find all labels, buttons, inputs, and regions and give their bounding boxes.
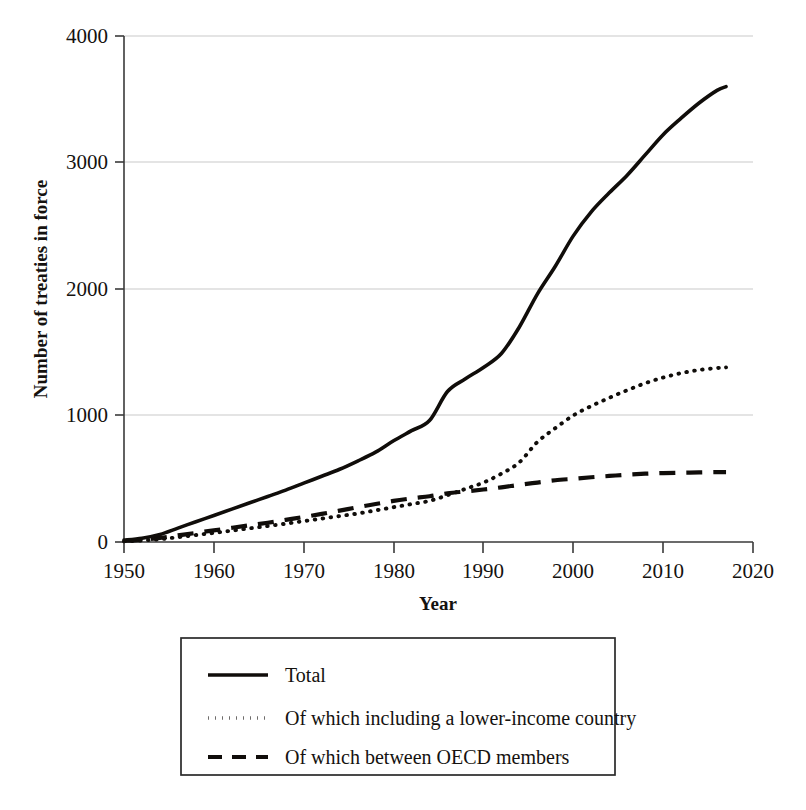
chart-figure: 4000 3000 2000 1000 0 1950 1960 1970 198… bbox=[0, 0, 806, 810]
y-tick-label-2000: 2000 bbox=[66, 277, 108, 301]
y-tick-label-3000: 3000 bbox=[66, 150, 108, 174]
y-axis-title: Number of treaties in force bbox=[30, 180, 51, 398]
x-tick-label-2000: 2000 bbox=[552, 559, 594, 583]
x-tick-label-1960: 1960 bbox=[193, 559, 235, 583]
y-tick-label-1000: 1000 bbox=[66, 403, 108, 427]
x-axis-title: Year bbox=[419, 593, 458, 614]
legend-label-total: Total bbox=[285, 664, 326, 686]
y-tick-label-4000: 4000 bbox=[66, 24, 108, 48]
x-tick-label-1970: 1970 bbox=[283, 559, 325, 583]
y-tick-label-0: 0 bbox=[98, 530, 109, 554]
x-tick-label-1990: 1990 bbox=[462, 559, 504, 583]
x-tick-label-1980: 1980 bbox=[373, 559, 415, 583]
x-tick-label-1950: 1950 bbox=[103, 559, 145, 583]
legend: Total Of which including a lower-income … bbox=[181, 638, 636, 775]
legend-label-lower-income: Of which including a lower-income countr… bbox=[285, 707, 636, 730]
legend-label-oecd: Of which between OECD members bbox=[285, 746, 570, 768]
line-chart: 4000 3000 2000 1000 0 1950 1960 1970 198… bbox=[0, 0, 806, 810]
x-tick-label-2020: 2020 bbox=[732, 559, 774, 583]
x-tick-label-2010: 2010 bbox=[642, 559, 684, 583]
